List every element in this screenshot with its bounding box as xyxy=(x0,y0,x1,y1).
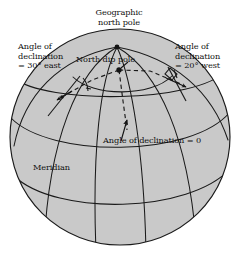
north-dip-pole-marker xyxy=(116,67,121,72)
earth-declination-diagram xyxy=(0,0,241,260)
zero-declination-label: Angle of declination = 0 xyxy=(103,136,201,146)
north-dip-pole-label: North dip pole xyxy=(76,55,135,65)
geographic-north-pole-label-line2: north pole xyxy=(83,18,155,28)
site-east-marker xyxy=(60,95,64,99)
figure-root: Geographic north pole Angle of declinati… xyxy=(0,0,241,260)
declination-west-label: Angle of declination = 20° west xyxy=(175,42,220,71)
declination-west-label-line3: = 20° west xyxy=(175,61,220,71)
declination-east-label-line3: = 30° east xyxy=(18,61,63,71)
declination-east-label: Angle of declination = 30° east xyxy=(18,42,63,71)
meridian-label: Meridian xyxy=(33,163,70,173)
geographic-north-pole-marker xyxy=(115,45,120,50)
geographic-north-pole-label: Geographic north pole xyxy=(83,8,155,27)
